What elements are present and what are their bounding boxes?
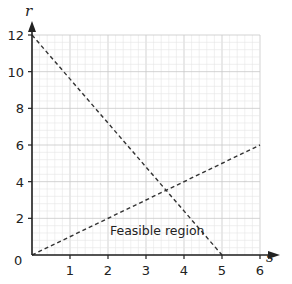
x-tick-label: 5 (218, 263, 226, 278)
grid (32, 35, 260, 255)
origin-label: 0 (14, 253, 22, 268)
x-tick-label: 4 (180, 263, 188, 278)
x-tick-label: 2 (104, 263, 112, 278)
y-axis-label: r (25, 2, 33, 20)
chart: 12345624681012 s r 0 Feasible region (0, 0, 292, 284)
x-tick-label: 6 (256, 263, 264, 278)
y-axis-arrow-icon (28, 21, 36, 32)
y-tick-label: 4 (16, 175, 24, 190)
x-axis-label: s (266, 248, 274, 266)
y-tick-label: 8 (16, 101, 24, 116)
y-tick-label: 2 (16, 211, 24, 226)
y-tick-label: 6 (16, 138, 24, 153)
y-tick-label: 10 (7, 65, 24, 80)
x-tick-label: 1 (66, 263, 74, 278)
y-tick-label: 12 (7, 28, 24, 43)
x-tick-label: 3 (142, 263, 150, 278)
feasible-region-label: Feasible region (110, 223, 204, 238)
